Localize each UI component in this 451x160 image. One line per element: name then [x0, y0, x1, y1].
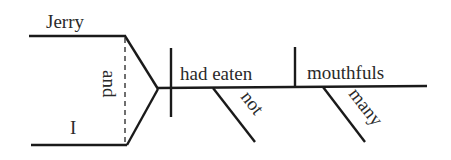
modifier-not: not [237, 87, 269, 120]
sentence-diagram: Jerry I and had eaten mouthfuls not many [0, 0, 451, 160]
fork-upper-line [125, 36, 158, 89]
subject-i: I [70, 117, 76, 138]
subject-jerry: Jerry [46, 11, 84, 32]
fork-lower-line [127, 89, 158, 145]
verb-had-eaten: had eaten [180, 63, 253, 84]
conjunction-and: and [99, 70, 120, 98]
main-baseline [157, 86, 427, 88]
object-mouthfuls: mouthfuls [307, 62, 384, 83]
